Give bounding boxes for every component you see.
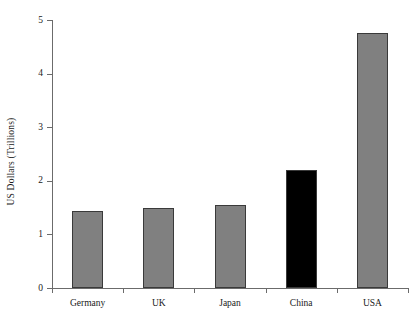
plot-area: 012345 GermanyUKJapanChinaUSA <box>52 20 408 288</box>
y-tick: 4 <box>47 74 52 75</box>
x-label-japan: Japan <box>219 299 241 309</box>
x-label-uk: UK <box>152 299 166 309</box>
bar-usa <box>357 33 388 288</box>
y-tick-label: 2 <box>38 177 43 187</box>
x-tick <box>194 288 195 293</box>
y-tick-label: 4 <box>38 69 43 79</box>
x-tick <box>337 288 338 293</box>
x-label-china: China <box>290 299 313 309</box>
x-tick <box>266 288 267 293</box>
y-tick: 1 <box>47 234 52 235</box>
y-tick-label: 0 <box>38 284 43 294</box>
y-tick-label: 5 <box>38 16 43 26</box>
bar-uk <box>143 208 174 288</box>
bar-china <box>286 170 317 288</box>
bar-germany <box>72 211 103 288</box>
y-tick: 5 <box>47 20 52 21</box>
x-tick <box>408 288 409 293</box>
y-tick: 2 <box>47 181 52 182</box>
x-axis-line <box>52 288 408 289</box>
bar-chart: US Dollars (Trillions) 012345 GermanyUKJ… <box>0 0 415 323</box>
x-label-germany: Germany <box>70 299 105 309</box>
x-tick <box>52 288 53 293</box>
y-axis-title: US Dollars (Trillions) <box>0 0 22 323</box>
y-tick-label: 3 <box>38 123 43 133</box>
x-label-usa: USA <box>363 299 382 309</box>
y-tick: 3 <box>47 127 52 128</box>
y-tick-label: 1 <box>38 230 43 240</box>
y-axis-line <box>52 20 53 288</box>
x-tick <box>123 288 124 293</box>
bar-japan <box>215 205 246 288</box>
